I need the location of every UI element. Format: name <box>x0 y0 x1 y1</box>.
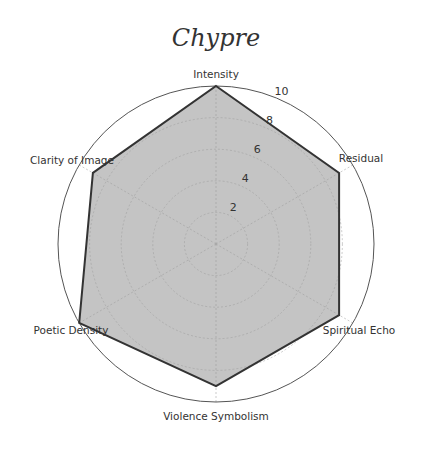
axis-label-residual: Residual <box>339 152 383 164</box>
axis-label-spiritual-echo: Spiritual Echo <box>323 324 395 336</box>
axis-label-clarity-of-image: Clarity of Image <box>30 154 114 166</box>
radial-tick-label: 2 <box>230 201 237 214</box>
radar-chart-canvas: Chypre 246810 Intensity Residual Spiritu… <box>0 0 425 449</box>
chart-title: Chypre <box>172 24 260 52</box>
radar-chart: Chypre 246810 Intensity Residual Spiritu… <box>0 0 425 449</box>
axis-label-violence-symbolism: Violence Symbolism <box>163 410 269 422</box>
axis-label-intensity: Intensity <box>193 68 239 80</box>
radial-tick-label: 8 <box>266 114 273 127</box>
radial-tick-label: 10 <box>275 85 289 98</box>
axis-label-poetic-density: Poetic Density <box>34 324 109 336</box>
radial-tick-label: 4 <box>242 172 249 185</box>
radial-tick-label: 6 <box>254 143 261 156</box>
